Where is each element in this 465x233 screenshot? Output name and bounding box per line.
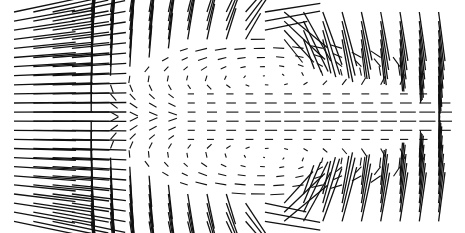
vector-segment — [207, 85, 211, 90]
vector-segment — [205, 76, 207, 82]
vector-segment — [340, 69, 342, 76]
vector-segment — [168, 152, 169, 158]
vector-segment — [201, 67, 207, 71]
vector-segment — [182, 173, 188, 176]
vector-segment — [292, 185, 303, 187]
vector-segment — [184, 163, 188, 167]
vector-segment — [284, 39, 302, 62]
vector-segment — [167, 76, 168, 82]
vector-segment — [226, 212, 247, 233]
vector-segment — [111, 133, 117, 140]
vector-segment — [302, 72, 304, 76]
vector-segment — [215, 48, 226, 50]
vector-segment — [226, 0, 248, 21]
vector-segment — [188, 145, 191, 149]
vector-segment — [148, 76, 149, 82]
vector-segment — [304, 82, 308, 85]
vector-segment — [168, 94, 173, 98]
vector-segment — [265, 221, 320, 230]
vector-segment — [148, 151, 149, 158]
vector-segment — [201, 163, 207, 167]
vector-segment — [225, 76, 227, 80]
vector-segments — [14, 0, 452, 233]
vector-segment — [130, 117, 138, 121]
vector-segment — [342, 152, 352, 203]
vector-segment — [130, 134, 136, 140]
vector-segment — [164, 162, 168, 167]
vector-segment — [341, 158, 342, 165]
vector-segment — [322, 158, 323, 163]
vector-segment — [374, 167, 380, 175]
vector-segment — [130, 142, 133, 149]
vector-segment — [72, 130, 126, 131]
vector-segment — [168, 85, 171, 90]
vector-segment — [226, 85, 230, 88]
vector-segment — [111, 125, 118, 130]
vector-segment — [130, 103, 138, 108]
vector-segment — [168, 118, 177, 121]
vector-segment — [221, 67, 227, 69]
vector-segment — [145, 161, 149, 167]
vector-segment — [323, 81, 327, 85]
vector-segment — [218, 174, 226, 176]
vector-segment — [168, 112, 177, 115]
vector-segment — [215, 183, 226, 185]
vector-segment — [111, 85, 114, 93]
vector-segment — [244, 76, 246, 78]
vector-segment — [360, 68, 362, 76]
vector-segment — [168, 136, 174, 140]
vector-segment — [187, 153, 188, 158]
vector-segment — [273, 185, 284, 186]
vector-segment — [168, 103, 175, 106]
vector-segment — [265, 3, 320, 12]
vector-segment — [149, 103, 156, 107]
vector-segment — [244, 155, 246, 158]
vector-segment — [162, 172, 168, 176]
vector-segment — [284, 84, 288, 85]
vector-segment — [361, 78, 365, 85]
vector-segment — [282, 74, 284, 76]
vector-segment — [111, 103, 118, 108]
vector-segment — [218, 58, 227, 60]
vector-segment — [195, 48, 207, 51]
vector-segment — [184, 67, 188, 71]
vector-segment — [180, 182, 188, 185]
vector-segment — [226, 8, 236, 39]
vector-segment — [164, 67, 168, 72]
vector-segment — [149, 143, 152, 149]
vector-segment — [149, 118, 157, 121]
vector-segment — [198, 58, 207, 61]
vector-segment — [235, 184, 246, 185]
vector-segment — [130, 125, 138, 130]
vector-segment — [279, 167, 284, 168]
vector-segment — [130, 94, 136, 100]
vector-segment — [149, 126, 157, 130]
vector-segment — [246, 147, 250, 148]
vector-segment — [162, 58, 168, 62]
vector-segment — [342, 149, 347, 155]
vector-segment — [246, 85, 250, 87]
vector-segment — [149, 94, 155, 99]
vector-segment — [111, 117, 119, 121]
vector-field-plot — [0, 0, 465, 233]
vector-segment — [226, 194, 235, 224]
vector-segment — [380, 158, 381, 168]
vector-segment — [360, 158, 361, 166]
vector-segment — [234, 48, 245, 49]
vector-segment — [168, 144, 171, 149]
vector-segment — [321, 71, 323, 76]
vector-segment — [283, 158, 285, 160]
vector-segment — [374, 59, 381, 67]
vector-segment — [394, 167, 401, 177]
vector-segment — [342, 30, 353, 82]
vector-segment — [72, 103, 126, 104]
vector-segment — [240, 67, 245, 68]
vector-segment — [361, 149, 366, 156]
vector-segment — [371, 176, 381, 183]
vector-segment — [187, 76, 188, 81]
vector-segment — [111, 112, 119, 116]
vector-segment — [270, 194, 284, 195]
vector-segment — [302, 158, 303, 162]
vector-segment — [241, 166, 246, 167]
vector-segment — [323, 149, 328, 153]
